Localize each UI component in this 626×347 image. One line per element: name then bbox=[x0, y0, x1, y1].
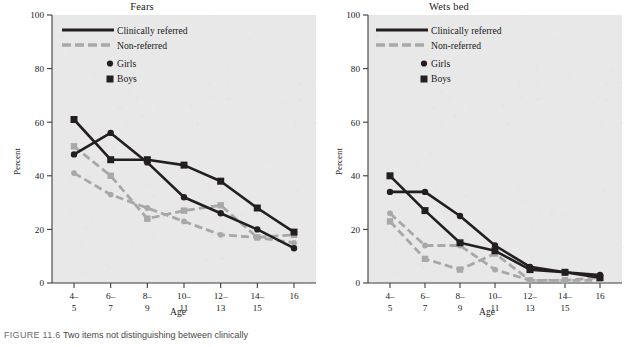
x-tick-label-upper: 10– bbox=[177, 291, 191, 301]
x-tick-label-upper: 12– bbox=[214, 291, 228, 301]
chart-panel-fears: Fears Percent Age 0204060801004–56–78–91… bbox=[0, 0, 320, 330]
y-axis-label-left: Percent bbox=[12, 148, 22, 175]
data-point-square bbox=[387, 218, 393, 224]
data-point-square bbox=[71, 143, 77, 149]
legend-label-boys: Boys bbox=[117, 73, 137, 84]
legend-label-clinically-referred: Clinically referred bbox=[431, 25, 502, 36]
data-point-circle bbox=[597, 272, 603, 278]
data-point-square bbox=[181, 207, 187, 213]
x-tick-label-upper: 8– bbox=[143, 291, 153, 301]
x-tick-label-upper: 4– bbox=[69, 291, 79, 301]
legend-label-girls: Girls bbox=[117, 58, 136, 69]
data-point-circle bbox=[254, 235, 260, 241]
x-tick-label-upper: 4– bbox=[385, 291, 395, 301]
x-tick-label-upper: 8– bbox=[455, 291, 465, 301]
legend-label-non-referred: Non-referred bbox=[117, 40, 167, 51]
x-tick-label-upper: 12– bbox=[523, 291, 537, 301]
data-point-square bbox=[108, 173, 114, 179]
data-point-square bbox=[71, 116, 78, 123]
data-point-circle bbox=[527, 264, 533, 270]
data-point-circle bbox=[291, 245, 297, 251]
data-point-circle bbox=[108, 130, 114, 136]
figure-caption: FIGURE 11.6 Two items not distinguishing… bbox=[4, 330, 404, 340]
data-point-square bbox=[181, 162, 188, 169]
x-axis-label-left: Age bbox=[18, 307, 338, 317]
x-tick-label-upper: 10– bbox=[488, 291, 502, 301]
x-tick-label-upper: 6– bbox=[106, 291, 116, 301]
x-tick-label-upper: 14– bbox=[558, 291, 572, 301]
data-point-circle bbox=[218, 232, 224, 238]
data-point-square bbox=[291, 229, 298, 236]
y-tick-label: 20 bbox=[35, 225, 45, 235]
figure-caption-text: Two items not distinguishing between cli… bbox=[63, 330, 248, 340]
data-point-circle bbox=[291, 240, 297, 246]
data-point-circle bbox=[492, 267, 498, 273]
figure-container: Fears Percent Age 0204060801004–56–78–91… bbox=[0, 0, 626, 347]
plot-area-left: 0204060801004–56–78–910–1112–1314–1516Cl… bbox=[0, 0, 320, 330]
data-point-circle bbox=[108, 192, 114, 198]
data-point-square bbox=[422, 207, 429, 214]
y-tick-label: 60 bbox=[351, 118, 361, 128]
legend-marker-girls bbox=[421, 60, 427, 66]
data-point-circle bbox=[562, 277, 568, 283]
data-point-circle bbox=[422, 189, 428, 195]
y-tick-label: 40 bbox=[351, 171, 361, 181]
chart-panel-wets-bed: Wets bed Percent Age 0204060801004–56–78… bbox=[320, 0, 626, 330]
data-point-square bbox=[144, 216, 150, 222]
y-axis-label-right: Percent bbox=[334, 148, 344, 175]
data-point-square bbox=[457, 239, 464, 246]
y-tick-label: 80 bbox=[351, 64, 361, 74]
legend-label-non-referred: Non-referred bbox=[431, 40, 481, 51]
legend-marker-girls bbox=[107, 60, 113, 66]
plot-background bbox=[52, 15, 316, 283]
data-point-circle bbox=[144, 205, 150, 211]
y-tick-label: 60 bbox=[35, 118, 45, 128]
data-point-circle bbox=[387, 189, 393, 195]
legend-label-clinically-referred: Clinically referred bbox=[117, 25, 188, 36]
data-point-circle bbox=[218, 210, 224, 216]
data-point-circle bbox=[562, 269, 568, 275]
y-tick-label: 80 bbox=[35, 64, 45, 74]
data-point-circle bbox=[181, 219, 187, 225]
chart-title-left: Fears bbox=[0, 1, 302, 12]
data-point-circle bbox=[492, 242, 498, 248]
y-tick-label: 20 bbox=[351, 225, 361, 235]
data-point-circle bbox=[387, 210, 393, 216]
y-tick-label: 0 bbox=[39, 278, 44, 288]
y-tick-label: 0 bbox=[355, 278, 360, 288]
data-point-circle bbox=[422, 243, 428, 249]
legend-marker-boys bbox=[421, 76, 428, 83]
x-axis-label-right: Age bbox=[334, 307, 626, 317]
data-point-circle bbox=[71, 170, 77, 176]
plot-area-right: 0204060801004–56–78–910–1112–1314–1516Cl… bbox=[320, 0, 626, 330]
y-tick-label: 40 bbox=[35, 171, 45, 181]
data-point-square bbox=[254, 205, 261, 212]
data-point-square bbox=[218, 202, 224, 208]
legend-label-boys: Boys bbox=[431, 73, 451, 84]
data-point-square bbox=[457, 266, 463, 272]
data-point-circle bbox=[527, 277, 533, 283]
figure-number: FIGURE 11.6 bbox=[4, 330, 61, 340]
data-point-circle bbox=[71, 151, 77, 157]
data-point-square bbox=[107, 156, 114, 163]
x-tick-label-upper: 6– bbox=[420, 291, 430, 301]
data-point-square bbox=[422, 256, 428, 262]
data-point-circle bbox=[181, 194, 187, 200]
chart-title-right: Wets bed bbox=[296, 1, 602, 12]
data-point-circle bbox=[457, 213, 463, 219]
legend-label-girls: Girls bbox=[431, 58, 450, 69]
legend-marker-boys bbox=[107, 76, 114, 83]
data-point-square bbox=[217, 178, 224, 185]
data-point-circle bbox=[144, 159, 150, 165]
data-point-square bbox=[387, 172, 394, 179]
x-tick-label-upper: 16 bbox=[595, 291, 605, 301]
x-tick-label-upper: 14– bbox=[250, 291, 264, 301]
x-tick-label-upper: 16 bbox=[289, 291, 299, 301]
data-point-circle bbox=[254, 226, 260, 232]
